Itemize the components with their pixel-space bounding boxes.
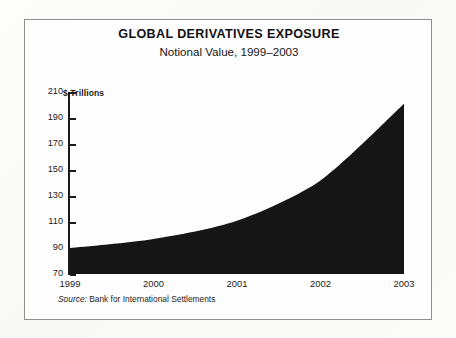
- chart-subtitle: Notional Value, 1999–2003: [25, 44, 433, 59]
- x-axis-tick-label: 1999: [60, 278, 81, 289]
- figure-frame: GLOBAL DERIVATIVES EXPOSURE Notional Val…: [24, 19, 432, 320]
- y-axis-tick-label: 170: [33, 138, 63, 148]
- source-note: Source: Bank for International Settlemen…: [58, 294, 215, 304]
- y-axis-tick-label: 210: [33, 86, 63, 96]
- source-note-label: Source:: [58, 294, 87, 304]
- x-axis-tick-label: 2001: [227, 278, 248, 289]
- y-axis-tick-label: 90: [33, 242, 63, 252]
- y-axis-tick-label: 190: [33, 112, 63, 122]
- area-series: [70, 92, 406, 275]
- x-axis-tick-label: 2000: [143, 278, 164, 289]
- x-axis-tick-label: 2003: [394, 278, 415, 289]
- source-note-text: Bank for International Settlements: [89, 294, 215, 304]
- area-series-path: [70, 104, 404, 274]
- plot-area: 2101901701501301109070 19992000200120022…: [70, 92, 404, 274]
- x-axis-tick-label: 2002: [310, 278, 331, 289]
- y-axis-tick-label: 130: [33, 190, 63, 200]
- title-block: GLOBAL DERIVATIVES EXPOSURE Notional Val…: [25, 27, 433, 59]
- scanned-page-background: GLOBAL DERIVATIVES EXPOSURE Notional Val…: [0, 0, 456, 338]
- y-axis-tick-label: 150: [33, 164, 63, 174]
- chart-title: GLOBAL DERIVATIVES EXPOSURE: [25, 27, 433, 42]
- y-axis-tick-label: 110: [33, 216, 63, 226]
- y-axis-tick-label: 70: [33, 268, 63, 278]
